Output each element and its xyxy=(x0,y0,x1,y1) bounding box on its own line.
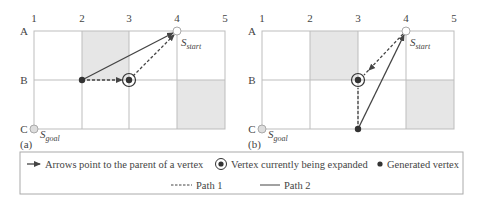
col-label: 1 xyxy=(259,12,265,24)
col-label: 2 xyxy=(79,12,85,24)
start-vertex xyxy=(402,27,410,35)
blocked-cell-a2 xyxy=(310,31,358,80)
goal-vertex xyxy=(258,125,266,133)
goal-vertex xyxy=(30,125,38,133)
row-label: C xyxy=(248,123,255,135)
col-label: 2 xyxy=(307,12,313,24)
generated-vertex-legend-icon xyxy=(377,161,382,166)
figure: 1 2 3 4 5 A B C Sstart Sgoal (a) xyxy=(0,0,486,205)
legend-path1-text: Path 1 xyxy=(196,180,223,191)
generated-vertex xyxy=(79,77,85,83)
legend-generated-text: Generated vertex xyxy=(387,159,460,170)
col-label: 4 xyxy=(174,12,180,24)
start-vertex xyxy=(173,27,181,35)
blocked-cell-b4 xyxy=(406,80,454,129)
start-label: Sstart xyxy=(410,36,431,51)
panel-caption: (b) xyxy=(248,138,261,151)
col-label: 4 xyxy=(403,12,409,24)
blocked-cell-a2 xyxy=(82,31,129,80)
panel-a: 1 2 3 4 5 A B C Sstart Sgoal (a) xyxy=(20,12,228,151)
legend-expanded-text: Vertex currently being expanded xyxy=(231,159,368,170)
col-label: 5 xyxy=(222,12,228,24)
col-label: 5 xyxy=(451,12,457,24)
legend-arrow-text: Arrows point to the parent of a vertex xyxy=(45,159,204,170)
legend: Arrows point to the parent of a vertex V… xyxy=(20,152,463,194)
goal-label: Sgoal xyxy=(40,128,61,143)
expanded-vertex-legend-dot xyxy=(218,161,223,166)
generated-vertex xyxy=(355,126,361,132)
col-label: 3 xyxy=(126,12,132,24)
row-label: B xyxy=(248,74,255,86)
path2-edge xyxy=(358,35,404,129)
row-label: A xyxy=(20,25,28,37)
col-label: 1 xyxy=(31,12,37,24)
blocked-cell-b4 xyxy=(177,80,225,129)
panel-b: 1 2 3 4 5 A B C Sstart Sgoal (b) xyxy=(248,12,457,151)
path1-edge xyxy=(133,35,174,76)
expanded-vertex xyxy=(126,77,132,83)
panel-caption: (a) xyxy=(20,138,33,151)
legend-path2-text: Path 2 xyxy=(284,180,311,191)
col-label: 3 xyxy=(355,12,361,24)
start-label: Sstart xyxy=(181,36,202,51)
row-label: B xyxy=(20,74,27,86)
row-label: A xyxy=(248,25,256,37)
goal-label: Sgoal xyxy=(268,128,289,143)
row-label: C xyxy=(20,123,27,135)
expanded-vertex xyxy=(355,77,361,83)
